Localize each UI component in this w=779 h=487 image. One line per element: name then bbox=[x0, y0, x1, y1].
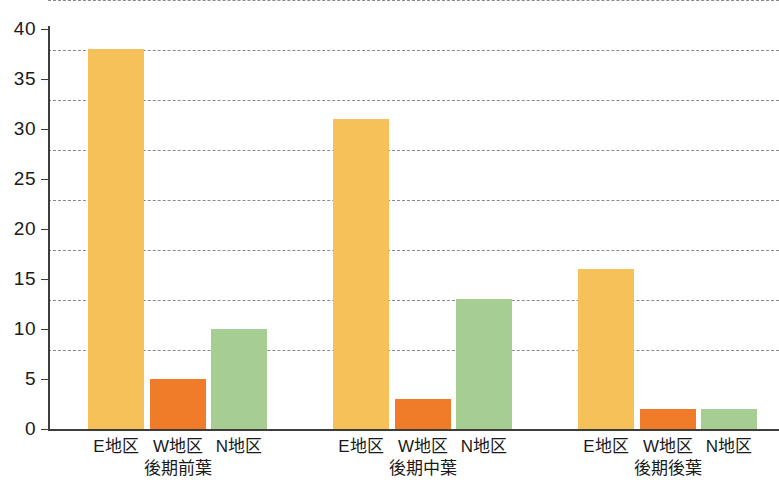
bar bbox=[456, 299, 512, 429]
bars-layer bbox=[48, 29, 779, 429]
x-group-label: 後期後葉 bbox=[598, 459, 738, 479]
gridline bbox=[48, 0, 779, 1]
x-group-label: 後期中葉 bbox=[353, 459, 493, 479]
x-tick-label: N地区 bbox=[439, 437, 529, 457]
y-tick-label: 30 bbox=[0, 119, 36, 138]
bar bbox=[395, 399, 451, 429]
y-tick-label: 40 bbox=[0, 19, 36, 38]
x-tick-label: N地区 bbox=[194, 437, 284, 457]
bar bbox=[578, 269, 634, 429]
bar bbox=[333, 119, 389, 429]
x-axis-line bbox=[48, 429, 779, 431]
bar bbox=[211, 329, 267, 429]
y-tick-label: 0 bbox=[0, 419, 36, 438]
y-tick-label: 15 bbox=[0, 269, 36, 288]
y-tick-label: 35 bbox=[0, 69, 36, 88]
x-group-label: 後期前葉 bbox=[108, 459, 248, 479]
bar bbox=[640, 409, 696, 429]
x-tick-label: N地区 bbox=[684, 437, 774, 457]
bar bbox=[150, 379, 206, 429]
bar bbox=[701, 409, 757, 429]
y-tick-label: 20 bbox=[0, 219, 36, 238]
bar bbox=[88, 49, 144, 429]
bar-chart: 4035302520151050 E地区W地区N地区後期前葉E地区W地区N地区後… bbox=[0, 0, 779, 487]
y-tick-label: 10 bbox=[0, 319, 36, 338]
y-tick-label: 25 bbox=[0, 169, 36, 188]
y-tick-label: 5 bbox=[0, 369, 36, 388]
